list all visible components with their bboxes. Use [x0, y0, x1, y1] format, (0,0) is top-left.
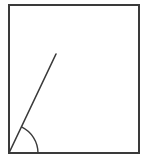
angle-arc [21, 127, 38, 153]
angle-diagram [0, 0, 149, 159]
angle-ray [9, 54, 56, 153]
